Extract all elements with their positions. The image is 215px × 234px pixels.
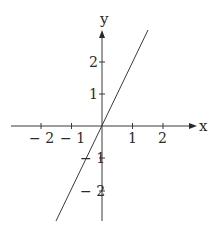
- y-axis-label: y: [99, 10, 109, 28]
- x-tick-label: 1: [128, 130, 137, 146]
- function-plot: x y − 2 − 1 1 2 2 1 − 1 − 2: [0, 0, 215, 234]
- x-axis-label: x: [199, 117, 208, 135]
- x-axis-arrow-icon: [189, 123, 197, 129]
- x-tick-label: 2: [158, 130, 167, 146]
- x-tick-label: − 2: [29, 130, 54, 146]
- x-tick-labels: − 2 − 1 1 2: [29, 130, 167, 146]
- y-tick-label: − 2: [80, 183, 105, 199]
- x-tick-label: − 1: [60, 130, 85, 146]
- y-tick-label: 1: [89, 86, 98, 102]
- y-tick-label: 2: [89, 54, 98, 70]
- y-axis-arrow-icon: [99, 30, 105, 38]
